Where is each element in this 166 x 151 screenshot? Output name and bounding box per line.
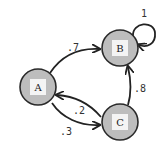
edge-label-a-to-c: .3 [60,126,72,137]
edge-label-b-self: 1 [141,8,147,19]
edge-label-a-to-b: .7 [67,42,79,53]
edge-label-c-to-a: .2 [73,105,85,116]
edge-c-to-b [128,67,130,105]
node-a-label: A [33,82,42,93]
node-c: C [102,104,138,140]
markov-diagram: .7 1 .8 .2 .3 A B C [0,0,166,151]
node-b: B [102,30,138,66]
edge-label-c-to-b: .8 [134,83,146,94]
node-a: A [20,69,56,105]
node-c-label: C [116,117,124,128]
node-b-label: B [116,43,123,54]
edge-a-to-b [50,49,99,73]
